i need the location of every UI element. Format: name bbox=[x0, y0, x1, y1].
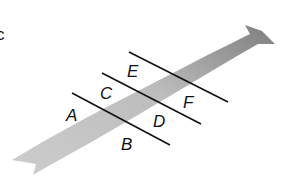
label-a: A bbox=[65, 106, 77, 125]
ribbon-transversal-diagram: c A B C D E F bbox=[0, 0, 281, 182]
ribbon bbox=[12, 25, 275, 175]
edge-label-c: c bbox=[0, 25, 5, 44]
label-f: F bbox=[183, 93, 195, 112]
label-b: B bbox=[121, 135, 132, 154]
label-d: D bbox=[153, 112, 165, 131]
label-e: E bbox=[127, 62, 139, 81]
label-c: C bbox=[100, 84, 113, 103]
